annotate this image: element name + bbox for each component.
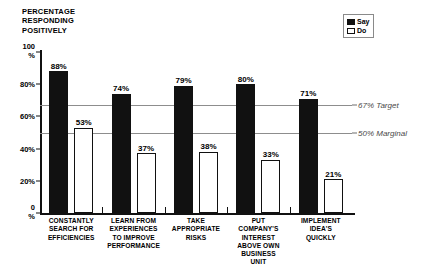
bar-group: 79%38% — [165, 52, 227, 213]
x-axis-group-separator — [227, 207, 228, 213]
x-axis-group-separator — [290, 207, 291, 213]
bar-value-label: 33% — [263, 150, 279, 159]
bar-do: 33% — [261, 160, 280, 213]
bar-do: 37% — [137, 153, 156, 213]
reference-line-label: 50% Marginal — [358, 128, 407, 137]
bar-value-label: 79% — [175, 76, 191, 85]
y-axis-tick-label: 60% — [20, 112, 35, 121]
bar-value-label: 21% — [325, 170, 341, 179]
bar-value-label: 37% — [138, 144, 154, 153]
legend-label-say: Say — [357, 17, 369, 26]
bar-value-label: 53% — [76, 118, 92, 127]
y-axis-tick-label: 0 % — [28, 204, 35, 221]
bar-say: 88% — [49, 71, 68, 213]
bar-value-label: 80% — [238, 75, 254, 84]
bar-group: 88%53% — [40, 52, 102, 213]
y-axis-tick-label: 40% — [20, 144, 35, 153]
x-axis-category-label: CONSTANTLY SEARCH FOR EFFICIENCIES — [40, 217, 102, 242]
x-axis-group-separator — [165, 207, 166, 213]
chart-legend: Say Do — [343, 14, 374, 38]
bar-do: 21% — [324, 179, 343, 213]
reference-line-tick — [352, 105, 357, 106]
legend-swatch-do-icon — [347, 28, 355, 34]
x-axis-category-label: TAKE APPROPRIATE RISKS — [165, 217, 227, 242]
x-axis-category-label: PUT COMPANY'S INTEREST ABOVE OWN BUSINES… — [227, 217, 289, 267]
bar-value-label: 88% — [51, 62, 67, 71]
bar-do: 53% — [74, 128, 93, 213]
reference-line-tick — [352, 132, 357, 133]
legend-item-do: Do — [347, 26, 369, 35]
bar-value-label: 74% — [113, 84, 129, 93]
bar-say: 79% — [174, 86, 193, 213]
x-axis-category-label: IMPLEMENT IDEA'S QUICKLY — [290, 217, 352, 242]
legend-label-do: Do — [357, 26, 366, 35]
bar-say: 74% — [112, 94, 131, 213]
x-axis-category-label: LEARN FROM EXPERIENCES TO IMPROVE PERFOR… — [102, 217, 164, 250]
x-axis-group-separator — [102, 207, 103, 213]
y-axis-tick-label: 80% — [20, 80, 35, 89]
bar-group: 80%33% — [227, 52, 289, 213]
legend-swatch-say-icon — [347, 19, 355, 25]
bar-chart: PERCENTAGE RESPONDING POSITIVELY Say Do … — [0, 0, 422, 268]
bar-group: 71%21% — [290, 52, 352, 213]
legend-item-say: Say — [347, 17, 369, 26]
bar-value-label: 38% — [200, 142, 216, 151]
x-axis-line — [40, 213, 355, 215]
reference-line-label: 67% Target — [358, 101, 399, 110]
chart-title: PERCENTAGE RESPONDING POSITIVELY — [22, 7, 75, 35]
bar-group: 74%37% — [102, 52, 164, 213]
y-axis-tick-label: 100 % — [22, 43, 35, 60]
plot-area: 100 %80%60%40%20%0 %67% Target50% Margin… — [40, 52, 352, 213]
bar-say: 71% — [299, 99, 318, 213]
y-axis-tick-label: 20% — [20, 176, 35, 185]
bar-say: 80% — [236, 84, 255, 213]
bar-value-label: 71% — [300, 89, 316, 98]
bar-do: 38% — [199, 152, 218, 213]
